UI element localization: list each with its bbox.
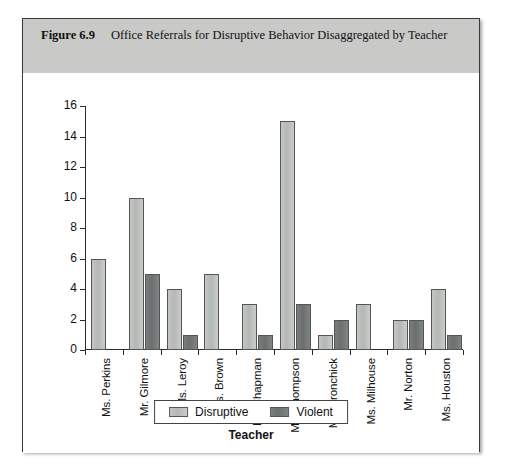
chart-plot-region: 0246810121416 Ms. PerkinsMr. GilmoreMs. … <box>23 73 479 453</box>
x-axis-label: Ms. Milhouse <box>365 358 377 425</box>
y-tick-mark <box>80 259 85 260</box>
x-tick-mark <box>274 350 275 355</box>
figure-header-row: Figure 6.9 Office Referrals for Disrupti… <box>41 27 461 44</box>
bar-violent[interactable] <box>183 335 198 350</box>
y-tick-label: 12 <box>64 159 77 173</box>
y-tick-label: 16 <box>64 98 77 112</box>
y-tick-12: 12 <box>85 167 86 168</box>
x-tick-mark <box>425 350 426 355</box>
y-tick-mark <box>80 137 85 138</box>
y-tick-14: 14 <box>85 137 86 138</box>
bar-violent[interactable] <box>145 274 160 350</box>
y-tick-label: 0 <box>70 342 77 356</box>
bar-disruptive[interactable] <box>318 335 333 350</box>
x-tick-mark <box>236 350 237 355</box>
y-tick-mark <box>80 106 85 107</box>
legend-swatch-icon <box>270 407 289 417</box>
bar-violent[interactable] <box>296 304 311 350</box>
x-tick-mark <box>387 350 388 355</box>
x-axis-label: Mr. Gilmore <box>138 358 150 416</box>
x-tick-mark <box>198 350 199 355</box>
figure-number: Figure 6.9 <box>41 27 95 44</box>
bar-violent[interactable] <box>334 320 349 351</box>
y-tick-mark <box>80 320 85 321</box>
x-tick-mark <box>350 350 351 355</box>
y-tick-mark <box>80 167 85 168</box>
y-tick-mark <box>80 228 85 229</box>
bar-disruptive[interactable] <box>242 304 257 350</box>
y-tick-10: 10 <box>85 198 86 199</box>
y-tick-mark <box>80 198 85 199</box>
bar-violent[interactable] <box>409 320 424 351</box>
y-tick-6: 6 <box>85 259 86 260</box>
y-tick-label: 6 <box>70 251 77 265</box>
y-tick-2: 2 <box>85 320 86 321</box>
x-tick-mark <box>85 350 86 355</box>
bar-disruptive[interactable] <box>356 304 371 350</box>
legend-label: Violent <box>296 405 332 419</box>
x-tick-mark <box>463 350 464 355</box>
legend-label: Disruptive <box>195 405 248 419</box>
bar-violent[interactable] <box>258 335 273 350</box>
bar-disruptive[interactable] <box>167 289 182 350</box>
x-axis-label: Ms. Perkins <box>100 358 112 417</box>
y-tick-16: 16 <box>85 106 86 107</box>
y-tick-4: 4 <box>85 289 86 290</box>
x-axis-title: Teacher <box>23 428 479 442</box>
y-tick-label: 4 <box>70 281 77 295</box>
legend-item-disruptive[interactable]: Disruptive <box>169 405 248 419</box>
y-tick-8: 8 <box>85 228 86 229</box>
figure-frame: Figure 6.9 Office Referrals for Disrupti… <box>22 18 480 452</box>
chart-plot-area: 0246810121416 <box>85 106 463 350</box>
figure-caption: Office Referrals for Disruptive Behavior… <box>111 27 461 44</box>
bar-disruptive[interactable] <box>91 259 106 351</box>
y-tick-mark <box>80 289 85 290</box>
bar-disruptive[interactable] <box>431 289 446 350</box>
chart-legend: DisruptiveViolent <box>154 400 348 424</box>
y-tick-label: 2 <box>70 312 77 326</box>
x-tick-mark <box>312 350 313 355</box>
y-tick-label: 14 <box>64 129 77 143</box>
legend-swatch-icon <box>169 407 188 417</box>
figure-header: Figure 6.9 Office Referrals for Disrupti… <box>23 19 479 73</box>
x-axis-label: Mr. Norton <box>402 358 414 411</box>
x-tick-mark <box>161 350 162 355</box>
bar-disruptive[interactable] <box>129 198 144 351</box>
bar-disruptive[interactable] <box>280 121 295 350</box>
x-axis-label: Ms. Houston <box>440 358 452 421</box>
bar-disruptive[interactable] <box>393 320 408 351</box>
bar-violent[interactable] <box>447 335 462 350</box>
bar-disruptive[interactable] <box>204 274 219 350</box>
y-tick-label: 8 <box>70 220 77 234</box>
x-tick-mark <box>123 350 124 355</box>
legend-item-violent[interactable]: Violent <box>270 405 332 419</box>
y-tick-label: 10 <box>64 190 77 204</box>
